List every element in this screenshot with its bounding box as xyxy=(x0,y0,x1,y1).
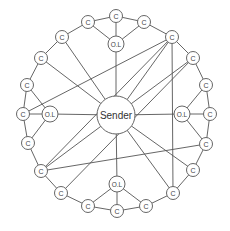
client-node-c11: C xyxy=(140,200,153,213)
client-node-c19-label: C xyxy=(38,55,43,62)
client-node-c12: C xyxy=(111,205,124,218)
client-node-c19: C xyxy=(35,52,48,65)
ol-node-olR-label: O.L xyxy=(177,111,188,118)
edge-c15-c8 xyxy=(41,144,206,171)
sender-node-label: Sender xyxy=(100,110,133,121)
client-node-c20: C xyxy=(56,31,69,44)
client-node-c17-label: C xyxy=(20,111,25,118)
client-node-c5-label: C xyxy=(190,55,195,62)
ol-node-olB-label: O.L xyxy=(112,181,123,188)
client-node-c6: C xyxy=(200,79,213,92)
client-node-c16-label: C xyxy=(25,140,30,147)
client-node-c18-label: C xyxy=(24,82,29,89)
client-node-c10: C xyxy=(167,187,180,200)
client-node-c18: C xyxy=(21,79,34,92)
client-node-c20-label: C xyxy=(59,34,64,41)
sender-node: Sender xyxy=(97,96,135,134)
ol-node-olB: O.L xyxy=(109,176,125,192)
client-node-c9-label: C xyxy=(190,167,195,174)
ol-node-olR: O.L xyxy=(174,106,190,122)
ol-node-olT-label: O.L xyxy=(111,41,122,48)
client-node-c6-label: C xyxy=(203,82,208,89)
client-node-c7: C xyxy=(204,108,217,121)
client-node-c5: C xyxy=(187,52,200,65)
client-node-c4: C xyxy=(166,31,179,44)
ol-node-olT: O.L xyxy=(108,36,124,52)
network-diagram: CCCCCCCCCCCCCCCCCCCCO.LO.LO.LO.LSender xyxy=(0,0,230,231)
client-node-c1-label: C xyxy=(85,19,90,26)
client-node-c8: C xyxy=(200,138,213,151)
client-node-c11-label: C xyxy=(143,203,148,210)
client-node-c3-label: C xyxy=(141,19,146,26)
ol-node-olL-label: O.L xyxy=(45,111,56,118)
client-node-c13: C xyxy=(82,200,95,213)
client-node-c15-label: C xyxy=(38,168,43,175)
client-node-c3: C xyxy=(138,16,151,29)
client-node-c13-label: C xyxy=(85,203,90,210)
client-node-c14-label: C xyxy=(58,190,63,197)
nodes-layer: CCCCCCCCCCCCCCCCCCCCO.LO.LO.LO.LSender xyxy=(17,10,217,218)
client-node-c9: C xyxy=(187,164,200,177)
client-node-c10-label: C xyxy=(170,190,175,197)
client-node-c8-label: C xyxy=(203,141,208,148)
client-node-c12-label: C xyxy=(114,208,119,215)
client-node-c2-label: C xyxy=(113,13,118,20)
edge-c4-c10 xyxy=(172,37,173,193)
client-node-c7-label: C xyxy=(207,111,212,118)
client-node-c2: C xyxy=(110,10,123,23)
client-node-c16: C xyxy=(22,137,35,150)
client-node-c17: C xyxy=(17,108,30,121)
client-node-c1: C xyxy=(82,16,95,29)
client-node-c4-label: C xyxy=(169,34,174,41)
diagram-canvas: CCCCCCCCCCCCCCCCCCCCO.LO.LO.LO.LSender xyxy=(0,0,230,231)
ol-node-olL: O.L xyxy=(42,106,58,122)
client-node-c15: C xyxy=(35,165,48,178)
client-node-c14: C xyxy=(55,187,68,200)
